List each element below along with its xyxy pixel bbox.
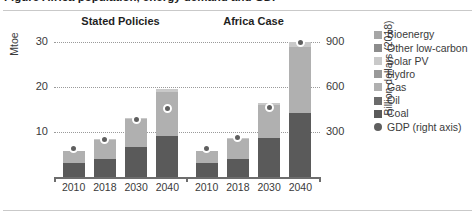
gridline xyxy=(54,87,320,88)
bar-segment[interactable] xyxy=(289,47,311,113)
bar-stack[interactable] xyxy=(156,89,178,177)
legend-label: Coal xyxy=(387,108,409,119)
bar-stack[interactable] xyxy=(258,103,280,178)
legend-item[interactable]: Coal xyxy=(374,107,474,120)
right-axis-tick-label: 600 xyxy=(326,80,352,92)
legend-item[interactable]: Gas xyxy=(374,81,474,94)
x-axis-tick-label: 2010 xyxy=(190,181,224,193)
x-axis-tick-label: 2040 xyxy=(283,181,317,193)
bar-segment[interactable] xyxy=(227,139,249,158)
x-axis-tick-label: 2018 xyxy=(88,181,122,193)
legend-swatch-icon xyxy=(374,70,382,78)
legend-swatch-icon xyxy=(374,110,382,118)
axis-tick-right-end xyxy=(319,177,321,182)
x-axis-tick-label: 2010 xyxy=(57,181,91,193)
top-divider xyxy=(3,10,472,11)
legend-label: Gas xyxy=(387,82,406,93)
x-axis-tick-label: 2040 xyxy=(150,181,184,193)
bar-segment[interactable] xyxy=(125,147,147,177)
gdp-marker[interactable] xyxy=(202,144,211,153)
legend-swatch-icon xyxy=(374,44,382,52)
bar-segment[interactable] xyxy=(196,163,218,177)
bar-segment[interactable] xyxy=(156,92,178,136)
right-axis-tick-label: 900 xyxy=(326,35,352,47)
gdp-marker[interactable] xyxy=(163,104,172,113)
legend-item[interactable]: Bioenergy xyxy=(374,28,474,41)
legend-label: Hydro xyxy=(387,69,415,80)
chart-legend: BioenergyOther low-carbonSolar PVHydroGa… xyxy=(374,28,474,134)
legend-swatch-icon xyxy=(374,57,382,65)
bar-stack[interactable] xyxy=(94,139,116,177)
left-axis-tick-label: 10 xyxy=(24,125,48,137)
bar-stack[interactable] xyxy=(63,151,85,177)
legend-swatch-icon xyxy=(374,83,382,91)
legend-circle-icon xyxy=(374,123,382,131)
bar-segment[interactable] xyxy=(94,159,116,178)
gdp-marker[interactable] xyxy=(265,103,274,112)
left-axis-tick-label: 20 xyxy=(24,80,48,92)
gdp-marker[interactable] xyxy=(132,115,141,124)
panel-title: Stated Policies xyxy=(54,15,187,27)
chart-figure: Figure Africa population, energy demand … xyxy=(0,0,475,220)
bar-stack[interactable] xyxy=(227,138,249,177)
legend-label: Bioenergy xyxy=(387,29,434,40)
legend-swatch-icon xyxy=(374,97,382,105)
bar-segment[interactable] xyxy=(63,151,85,163)
bar-segment[interactable] xyxy=(156,136,178,177)
bar-segment[interactable] xyxy=(227,159,249,178)
legend-label: Solar PV xyxy=(387,56,428,67)
bar-segment[interactable] xyxy=(196,151,218,163)
panel-title: Africa Case xyxy=(187,15,320,27)
legend-label: Other low-carbon xyxy=(387,43,468,54)
gridline xyxy=(54,42,320,43)
bar-stack[interactable] xyxy=(125,118,147,177)
bar-segment[interactable] xyxy=(156,89,178,92)
left-axis-tick-label: 30 xyxy=(24,35,48,47)
legend-item[interactable]: Oil xyxy=(374,94,474,107)
bar-stack[interactable] xyxy=(196,151,218,177)
axis-tick-middle xyxy=(186,177,188,182)
legend-label: GDP (right axis) xyxy=(387,122,462,133)
plot-area xyxy=(54,28,320,177)
x-axis-tick-label: 2030 xyxy=(119,181,153,193)
legend-label: Oil xyxy=(387,95,400,106)
axis-tick-left-end xyxy=(54,177,56,182)
gdp-marker[interactable] xyxy=(233,133,242,142)
gdp-marker[interactable] xyxy=(69,144,78,153)
bar-stack[interactable] xyxy=(289,42,311,177)
x-axis-tick-label: 2018 xyxy=(221,181,255,193)
bottom-divider xyxy=(3,210,472,211)
legend-item[interactable]: GDP (right axis) xyxy=(374,120,474,133)
x-axis-tick-label: 2030 xyxy=(252,181,286,193)
bar-segment[interactable] xyxy=(258,138,280,177)
legend-item[interactable]: Solar PV xyxy=(374,54,474,67)
right-axis-tick-label: 300 xyxy=(326,125,352,137)
left-axis-label: Mtoe xyxy=(8,24,20,64)
bar-segment[interactable] xyxy=(289,113,311,177)
figure-title: Figure Africa population, energy demand … xyxy=(0,0,475,5)
legend-swatch-icon xyxy=(374,31,382,39)
legend-item[interactable]: Hydro xyxy=(374,68,474,81)
bar-segment[interactable] xyxy=(63,163,85,177)
gdp-marker[interactable] xyxy=(296,38,305,47)
legend-item[interactable]: Other low-carbon xyxy=(374,41,474,54)
